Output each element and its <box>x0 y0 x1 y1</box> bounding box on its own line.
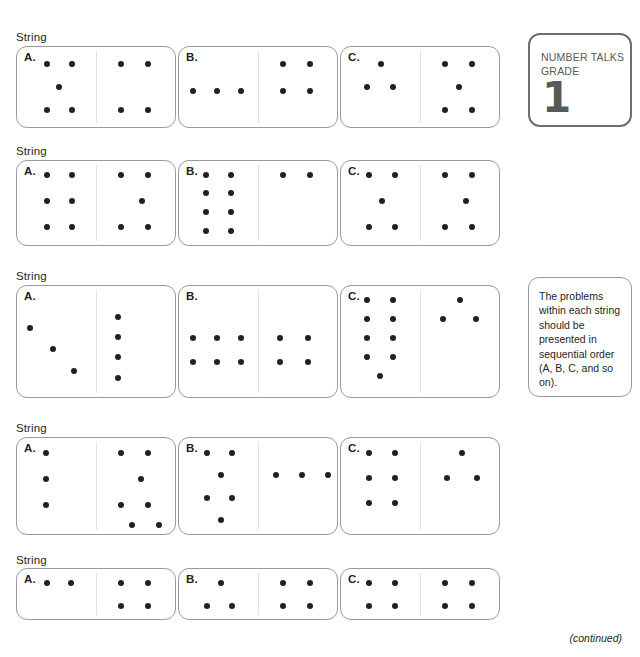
dot <box>390 316 396 322</box>
dot <box>229 450 235 456</box>
dot <box>366 450 372 456</box>
card-half-right <box>420 47 499 127</box>
card-half-right <box>420 569 499 619</box>
note-callout: The problems within each string should b… <box>528 277 632 397</box>
dot <box>392 172 398 178</box>
dot <box>442 580 448 586</box>
dot <box>118 502 124 508</box>
dot <box>390 335 396 341</box>
dot <box>118 172 124 178</box>
dot <box>366 580 372 586</box>
dot <box>145 450 151 456</box>
continued-label: (continued) <box>569 632 622 644</box>
dot <box>204 495 210 501</box>
dot <box>299 472 305 478</box>
dot <box>228 209 234 215</box>
dot <box>228 172 234 178</box>
dot-card: C. <box>340 285 500 398</box>
card-half-left <box>341 47 420 127</box>
dot <box>473 316 479 322</box>
card-half-left <box>17 47 96 127</box>
card-half-left <box>17 438 96 534</box>
dot <box>390 84 396 90</box>
dot <box>307 603 313 609</box>
dot <box>44 172 50 178</box>
dot-card: B. <box>178 160 338 246</box>
dot <box>469 172 475 178</box>
dot <box>280 580 286 586</box>
dot <box>469 61 475 67</box>
dot <box>43 502 49 508</box>
dot <box>145 107 151 113</box>
dot <box>204 603 210 609</box>
dot-card: C. <box>340 160 500 246</box>
dot <box>204 450 210 456</box>
dot <box>280 61 286 67</box>
dot <box>145 603 151 609</box>
dot <box>190 88 196 94</box>
badge-line1: NUMBER TALKS <box>541 51 624 63</box>
dot <box>115 314 121 320</box>
dot <box>69 107 75 113</box>
dot <box>305 359 311 365</box>
card-half-right <box>258 438 337 534</box>
dot-card: B. <box>178 46 338 128</box>
card-half-right <box>258 47 337 127</box>
dot <box>118 224 124 230</box>
dot <box>457 297 463 303</box>
badge-grade-number: 1 <box>542 77 571 119</box>
dot-card: C. <box>340 46 500 128</box>
dot <box>377 373 383 379</box>
dot <box>228 190 234 196</box>
card-half-right <box>96 47 175 127</box>
card-half-right <box>258 569 337 619</box>
dot <box>280 172 286 178</box>
dot-card: A. <box>16 46 176 128</box>
dot <box>190 359 196 365</box>
dot <box>44 198 50 204</box>
card-half-left <box>341 161 420 245</box>
card-half-right <box>258 286 337 397</box>
dot <box>115 334 121 340</box>
dot <box>156 522 162 528</box>
dot <box>71 368 77 374</box>
card-half-left <box>17 569 96 619</box>
dot <box>305 335 311 341</box>
dot <box>238 88 244 94</box>
dot-card: A. <box>16 285 176 398</box>
dot-card: B. <box>178 437 338 535</box>
dot <box>214 335 220 341</box>
dot <box>145 224 151 230</box>
dot <box>280 603 286 609</box>
dot <box>390 354 396 360</box>
dot <box>218 580 224 586</box>
string-label: String <box>16 145 47 157</box>
dot <box>145 61 151 67</box>
dot-card: C. <box>340 437 500 535</box>
dot <box>44 224 50 230</box>
dot <box>115 375 121 381</box>
string-label: String <box>16 270 47 282</box>
dot <box>392 475 398 481</box>
dot <box>273 472 279 478</box>
string-label: String <box>16 554 47 566</box>
card-half-left <box>179 47 258 127</box>
card-half-right <box>420 286 499 397</box>
dot <box>238 335 244 341</box>
string-label: String <box>16 422 47 434</box>
dot <box>280 88 286 94</box>
dot <box>379 198 385 204</box>
dot <box>307 61 313 67</box>
dot-card: C. <box>340 568 500 620</box>
dot <box>203 172 209 178</box>
dot <box>378 61 384 67</box>
card-half-right <box>96 438 175 534</box>
dot <box>392 500 398 506</box>
dot <box>44 107 50 113</box>
dot <box>392 224 398 230</box>
note-text: The problems within each string should b… <box>539 289 623 390</box>
dot <box>118 107 124 113</box>
dot <box>145 580 151 586</box>
card-half-right <box>96 569 175 619</box>
dot <box>56 84 62 90</box>
